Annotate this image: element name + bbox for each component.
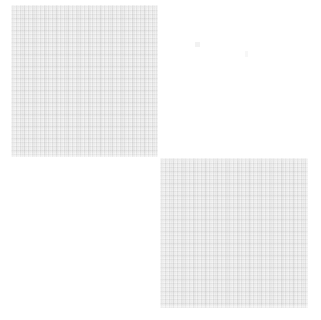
tile-texture-surface: [11, 5, 158, 157]
texture-tile-top-left[interactable]: [11, 5, 158, 157]
texture-tile-bottom-right[interactable]: [160, 158, 308, 308]
tile-texture-surface: [160, 158, 308, 308]
cell-bottom-left: [11, 158, 158, 308]
image-canvas: [0, 0, 321, 320]
cell-top-right: [160, 5, 308, 157]
